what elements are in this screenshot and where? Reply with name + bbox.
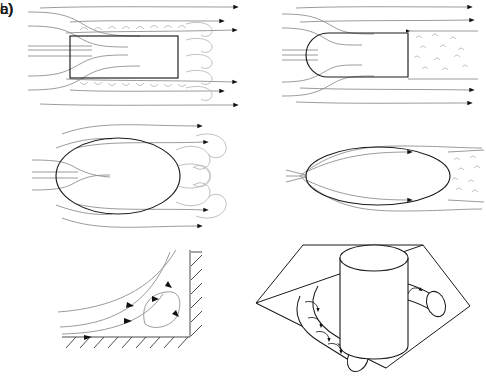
rectangular-body	[70, 36, 178, 78]
round-nose-panel	[282, 7, 478, 104]
upstream-streamlines	[286, 170, 306, 182]
thin-wake	[448, 150, 484, 202]
cylinder-top	[340, 245, 408, 271]
slender-ellipse-panel	[286, 146, 484, 211]
round-nosed-body	[306, 33, 408, 77]
attached-boundary-streamlines	[296, 7, 472, 104]
cylinder-side	[340, 258, 408, 359]
slender-ellipse-body	[306, 147, 450, 205]
corner-streamlines	[58, 250, 176, 340]
corner-vortex-panel	[58, 250, 202, 348]
wake-vortices	[176, 134, 226, 218]
thick-ellipse-body	[56, 138, 180, 214]
separation-bubble-eddies	[80, 26, 186, 87]
horseshoe-vortex-panel	[256, 245, 470, 375]
blunt-rectangle-panel	[28, 7, 236, 106]
wake-vortices	[186, 22, 212, 100]
fluid-flow-figure: a) b) c)	[0, 0, 486, 377]
bluff-ellipse-panel	[32, 125, 226, 228]
wall-hatching	[66, 252, 202, 348]
figure-canvas	[0, 0, 486, 377]
upstream-streamlines	[282, 14, 374, 96]
trailing-edge-wake	[408, 31, 478, 79]
